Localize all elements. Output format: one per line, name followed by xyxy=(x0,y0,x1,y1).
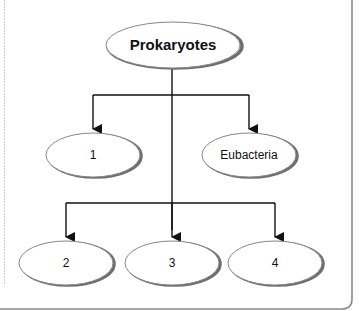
node-label: 4 xyxy=(272,256,279,270)
node-label: Prokaryotes xyxy=(130,36,217,53)
node-3: 3 xyxy=(125,241,220,285)
node-2: 2 xyxy=(19,241,114,285)
node-prokaryotes: Prokaryotes xyxy=(106,22,242,68)
node-1: 1 xyxy=(46,133,141,177)
node-eubacteria: Eubacteria xyxy=(202,133,297,177)
node-label: 3 xyxy=(169,256,176,270)
prokaryotes-tree-diagram: Prokaryotes 1 Eubacteria 2 3 4 xyxy=(0,0,359,311)
node-label: 2 xyxy=(63,256,70,270)
node-label: 1 xyxy=(90,148,97,162)
node-4: 4 xyxy=(228,241,323,285)
node-label: Eubacteria xyxy=(220,148,278,162)
